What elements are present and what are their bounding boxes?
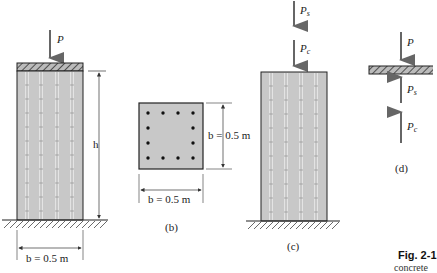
label-width-a: b = 0.5 m	[26, 252, 68, 264]
bearing-plate	[17, 63, 83, 71]
label-load-p: P	[57, 33, 64, 45]
panel-b-cross-section	[139, 103, 232, 203]
caption-d: (d)	[395, 162, 408, 174]
label-height-h: h	[93, 138, 99, 150]
caption-b: (b)	[165, 221, 178, 233]
ground-hatch-c	[248, 222, 339, 229]
panel-d-free-body	[369, 32, 433, 143]
label-ps-d: Ps	[407, 83, 417, 97]
label-pc-c: Pc	[300, 42, 310, 56]
figure-caption-text: concrete	[394, 262, 428, 273]
label-ps-c: Ps	[300, 4, 310, 18]
label-height-b: b = 0.5 m	[208, 129, 250, 141]
panel-c-column-forces	[246, 1, 340, 229]
plate-free-body	[369, 66, 433, 74]
figure-number: Fig. 2-1	[398, 249, 437, 261]
label-width-b: b = 0.5 m	[148, 193, 190, 205]
label-p-d: P	[407, 36, 414, 48]
caption-c: (c)	[287, 240, 299, 252]
label-pc-d: Pc	[407, 120, 417, 134]
ground-hatch	[4, 221, 107, 228]
